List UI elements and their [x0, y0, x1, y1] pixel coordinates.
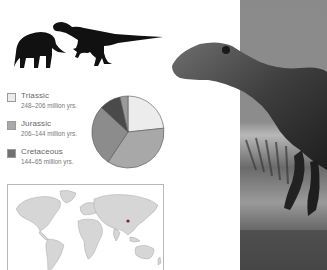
world-map [7, 184, 164, 270]
legend-label: Cretaceous [21, 147, 63, 156]
legend-swatch-cretaceous [7, 149, 16, 158]
legend-label: Triassic [21, 91, 49, 100]
legend-swatch-triassic [7, 93, 16, 102]
world-map-graphic [8, 185, 164, 270]
legend-range: 144–65 million yrs. [21, 158, 74, 165]
elephant-silhouette-icon [14, 32, 66, 68]
dinosaur-silhouette-icon [53, 22, 163, 66]
size-comparison-silhouettes [0, 0, 170, 80]
pie-slice-triassic [128, 96, 164, 132]
dinosaur-photo [160, 0, 327, 270]
location-marker-icon [126, 219, 129, 222]
legend-swatch-jurassic [7, 121, 16, 130]
legend-range: 248–206 million yrs. [21, 102, 77, 109]
legend-range: 206–144 million yrs. [21, 130, 77, 137]
pie-chart [88, 90, 168, 172]
legend-label: Jurassic [21, 119, 51, 128]
